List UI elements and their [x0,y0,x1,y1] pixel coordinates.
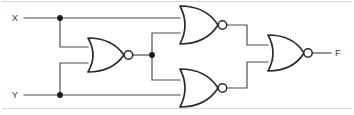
nor-gate-4[interactable] [268,35,312,71]
nor-gate-4-inversion-bubble [304,49,312,57]
wire-n1-to-gate3 [152,55,180,80]
wire-x-to-gate1 [60,18,88,47]
junction-dot-y [57,92,63,98]
input-label-x: X [12,12,19,23]
nor-gate-3-inversion-bubble [218,84,226,92]
wire-gate2-out-to-gate4 [226,25,268,45]
nor-gate-3[interactable] [180,69,227,107]
nor-gate-2-inversion-bubble [218,21,226,29]
output-label-f: F [335,47,341,58]
nor-gate-2-body [180,6,218,44]
wire-n1-to-gate2 [152,33,180,55]
nor-gate-1-body [88,38,124,72]
input-label-y: Y [12,89,19,100]
logic-circuit-svg: X Y F [0,0,354,115]
nor-gate-3-body [180,69,218,107]
wire-y-to-gate1 [60,63,88,95]
nor-gate-1[interactable] [88,38,133,72]
nor-gate-1-inversion-bubble [124,51,132,59]
junction-dot-x [57,15,63,21]
nor-gate-4-body [268,35,304,71]
circuit-diagram-canvas: X Y F [0,0,354,115]
wire-gate3-out-to-gate4 [226,62,268,88]
junction-dot-n1 [149,52,155,58]
nor-gate-2[interactable] [180,6,227,44]
